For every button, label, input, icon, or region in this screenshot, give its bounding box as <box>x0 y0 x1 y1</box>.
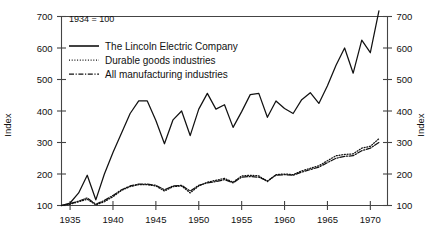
x-tick-label: 1960 <box>274 214 295 225</box>
x-tick-label: 1935 <box>60 214 81 225</box>
x-tick-label: 1940 <box>102 214 123 225</box>
y-tick-label-right: 600 <box>397 43 413 54</box>
x-tick-label: 1955 <box>231 214 252 225</box>
y-axis-left-title: Index <box>2 113 13 136</box>
y-tick-label-left: 400 <box>37 106 53 117</box>
x-axis-ticks: 19351940194519501955196019651970 <box>60 201 381 225</box>
y-tick-label-right: 300 <box>397 137 413 148</box>
legend-label: Durable goods industries <box>105 55 216 66</box>
x-tick-label: 1945 <box>145 214 166 225</box>
index-line-chart: 100200300400500600700 100200300400500600… <box>0 0 433 237</box>
x-tick-label: 1965 <box>317 214 338 225</box>
chart-container: 100200300400500600700 100200300400500600… <box>0 0 433 237</box>
y-tick-label-right: 700 <box>397 11 413 22</box>
y-tick-label-right: 100 <box>397 200 413 211</box>
x-tick-label: 1970 <box>360 214 381 225</box>
y-tick-label-left: 700 <box>37 11 53 22</box>
y-tick-label-right: 500 <box>397 74 413 85</box>
y-tick-label-left: 200 <box>37 169 53 180</box>
y-tick-label-right: 400 <box>397 106 413 117</box>
legend-label: The Lincoln Electric Company <box>105 41 238 52</box>
base-year-note: 1934 = 100 <box>69 14 114 24</box>
y-axis-right-title: Index <box>415 113 426 136</box>
y-tick-label-left: 100 <box>37 200 53 211</box>
y-tick-label-left: 600 <box>37 43 53 54</box>
series-line-dotted <box>62 139 379 206</box>
series-line-dashdot <box>62 143 379 206</box>
chart-legend: The Lincoln Electric CompanyDurable good… <box>69 41 238 80</box>
y-tick-label-right: 200 <box>397 169 413 180</box>
y-tick-label-left: 500 <box>37 74 53 85</box>
y-tick-label-left: 300 <box>37 137 53 148</box>
legend-label: All manufacturing industries <box>105 69 228 80</box>
x-tick-label: 1950 <box>188 214 209 225</box>
